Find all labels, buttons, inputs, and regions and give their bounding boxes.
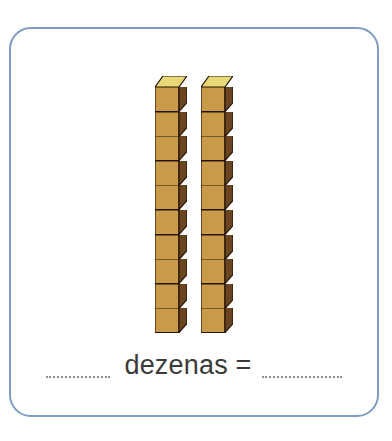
answer-label: dezenas = — [124, 352, 251, 379]
unit-cube — [155, 210, 187, 235]
unit-cube — [201, 185, 233, 210]
unit-cube — [201, 259, 233, 284]
answer-row: dezenas = — [11, 345, 377, 385]
rod-top-face — [155, 76, 187, 87]
worksheet-card: dezenas = — [9, 27, 379, 417]
base-ten-rod — [201, 76, 233, 333]
rod-group — [11, 76, 377, 333]
base-ten-blocks-illustration — [11, 29, 377, 329]
unit-cube — [155, 185, 187, 210]
unit-cube — [201, 210, 233, 235]
answer-blank-left[interactable] — [46, 375, 110, 378]
cube-stack — [201, 87, 233, 333]
unit-cube — [201, 284, 233, 309]
unit-cube — [201, 136, 233, 161]
unit-cube — [155, 259, 187, 284]
unit-cube — [201, 308, 233, 333]
base-ten-rod — [155, 76, 187, 333]
unit-cube — [201, 87, 233, 112]
unit-cube — [201, 161, 233, 186]
unit-cube — [201, 235, 233, 260]
unit-cube — [155, 87, 187, 112]
unit-cube — [155, 136, 187, 161]
answer-blank-right[interactable] — [262, 375, 342, 378]
unit-cube — [155, 308, 187, 333]
cube-stack — [155, 87, 187, 333]
rod-top-face — [201, 76, 233, 87]
unit-cube — [155, 112, 187, 137]
unit-cube — [155, 161, 187, 186]
unit-cube — [155, 235, 187, 260]
unit-cube — [201, 112, 233, 137]
unit-cube — [155, 284, 187, 309]
